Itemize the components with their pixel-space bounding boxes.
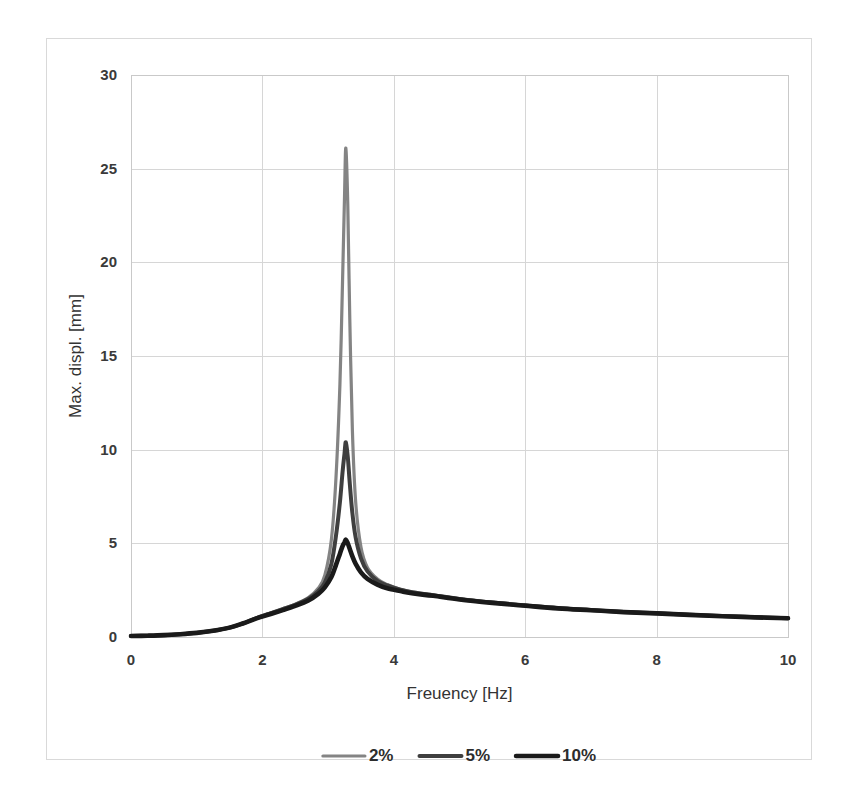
x-tick-label: 6 [521,651,529,668]
y-axis-tick-labels: 051015202530 [100,66,117,645]
x-tick-label: 8 [652,651,660,668]
series-line-5pct [131,442,788,636]
x-tick-label: 10 [780,651,797,668]
y-tick-label: 10 [100,441,117,458]
series-line-10pct [131,540,788,636]
line-chart: 051015202530 0246810 Max. displ. [mm] Fr… [47,39,813,761]
series-lines [131,148,788,636]
legend-label-10pct: 10% [562,746,596,761]
chart-frame: 051015202530 0246810 Max. displ. [mm] Fr… [46,38,812,760]
y-tick-label: 0 [109,628,117,645]
y-tick-label: 15 [100,347,117,364]
legend-label-2pct: 2% [369,746,394,761]
x-axis-tick-labels: 0246810 [127,651,797,668]
x-tick-label: 2 [258,651,266,668]
y-tick-label: 30 [100,66,117,83]
y-tick-label: 20 [100,253,117,270]
y-axis-title: Max. displ. [mm] [66,294,85,418]
y-tick-label: 5 [109,534,117,551]
chart-plot-area: 051015202530 0246810 Max. displ. [mm] Fr… [47,39,813,761]
y-tick-label: 25 [100,160,117,177]
x-tick-label: 0 [127,651,135,668]
gridlines [131,75,788,637]
series-line-2pct [131,148,788,636]
x-axis-title: Freuency [Hz] [407,684,513,703]
legend-label-5pct: 5% [465,746,490,761]
x-tick-label: 4 [390,651,399,668]
chart-legend: 2%5%10% [323,746,596,761]
